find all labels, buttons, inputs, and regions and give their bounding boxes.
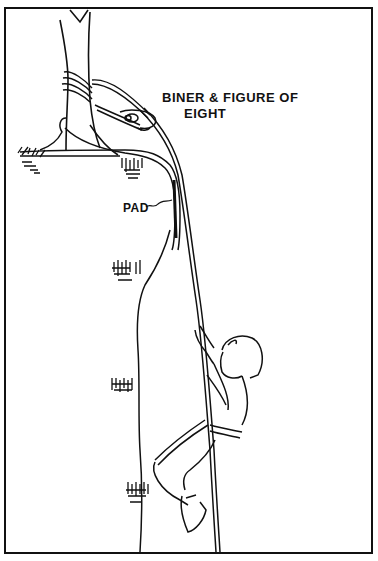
label-biner-line2: EIGHT bbox=[162, 106, 312, 122]
rope-anchor-line bbox=[20, 118, 180, 250]
rope-main bbox=[140, 108, 220, 552]
illustration bbox=[0, 0, 378, 561]
helmet bbox=[222, 336, 262, 378]
pad bbox=[174, 180, 176, 238]
label-biner-line1: BINER & FIGURE OF bbox=[162, 90, 298, 105]
rock-face bbox=[137, 230, 170, 552]
label-biner-figure-eight: BINER & FIGURE OF EIGHT bbox=[162, 90, 312, 122]
pad-pointer bbox=[146, 200, 172, 207]
boot bbox=[181, 496, 206, 532]
rope-wraps bbox=[62, 72, 150, 118]
label-pad: PAD bbox=[123, 201, 149, 215]
